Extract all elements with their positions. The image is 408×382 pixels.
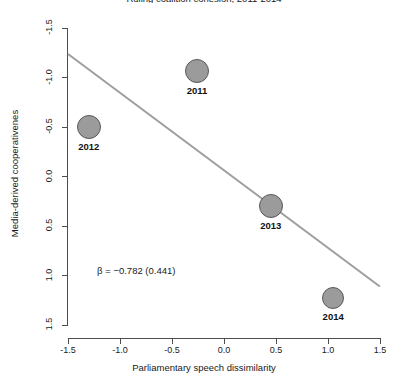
beta-annotation: β = −0.782 (0.441)	[97, 265, 175, 276]
y-tick-label: 0.5	[44, 214, 54, 236]
data-point-label-2013: 2013	[241, 220, 301, 231]
x-axis-label: Parliamentary speech dissimilarity	[0, 362, 408, 373]
y-tick-label-wrap: 1.5	[32, 319, 60, 331]
x-tick-label: -0.5	[152, 345, 192, 355]
y-tick-label: -1.0	[44, 66, 54, 88]
y-tick-mark	[62, 275, 68, 276]
y-tick-label-wrap: -1.0	[32, 72, 60, 84]
x-tick-label: -1.5	[48, 345, 88, 355]
y-tick-label-wrap: -0.5	[32, 121, 60, 133]
y-tick-mark	[62, 28, 68, 29]
y-tick-label-wrap: -1.5	[32, 22, 60, 34]
y-tick-mark	[62, 325, 68, 326]
y-tick-mark	[62, 176, 68, 177]
data-point-label-2011: 2011	[167, 85, 227, 96]
x-tick-label: 0.0	[204, 345, 244, 355]
y-tick-label: -0.5	[44, 115, 54, 137]
data-point-label-2014: 2014	[303, 311, 363, 322]
data-point-label-2012: 2012	[59, 141, 119, 152]
x-tick-mark	[120, 338, 121, 344]
x-tick-label: 0.5	[256, 345, 296, 355]
y-tick-label-wrap: 0.5	[32, 220, 60, 232]
data-point-2012[interactable]	[77, 115, 101, 139]
chart-canvas: Ruling coalition cohesion, 2011-2014 1.5…	[0, 0, 408, 382]
data-point-2013[interactable]	[259, 194, 283, 218]
y-tick-label: 0.0	[44, 165, 54, 187]
data-point-2011[interactable]	[185, 59, 209, 83]
x-tick-mark	[380, 338, 381, 344]
y-tick-label-wrap: 0.0	[32, 171, 60, 183]
x-tick-mark	[224, 338, 225, 344]
x-tick-mark	[172, 338, 173, 344]
y-tick-mark	[62, 127, 68, 128]
x-tick-mark	[68, 338, 69, 344]
y-tick-label: -1.5	[44, 16, 54, 38]
y-tick-label: 1.0	[44, 264, 54, 286]
x-tick-label: 1.5	[360, 345, 400, 355]
x-tick-mark	[276, 338, 277, 344]
data-point-2014[interactable]	[322, 287, 344, 309]
x-tick-mark	[328, 338, 329, 344]
x-tick-label: 1.0	[308, 345, 348, 355]
y-axis-line	[67, 28, 68, 326]
y-axis-label: Media-derived cooperativenes	[9, 74, 20, 274]
y-tick-mark	[62, 77, 68, 78]
plot-area: 1.51.00.50.0-0.5-1.0-1.5-1.5-1.0-0.50.00…	[0, 0, 408, 382]
y-tick-label-wrap: 1.0	[32, 270, 60, 282]
x-tick-label: -1.0	[100, 345, 140, 355]
y-tick-label: 1.5	[44, 313, 54, 335]
y-tick-mark	[62, 226, 68, 227]
x-axis-line	[68, 338, 381, 339]
